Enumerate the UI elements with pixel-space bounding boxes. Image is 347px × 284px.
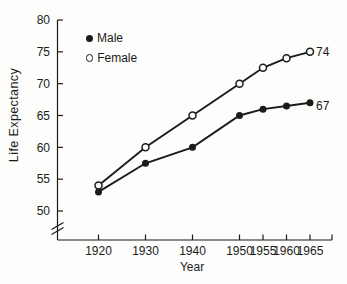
male-point [283,102,290,109]
male-point [189,144,196,151]
female-point [260,64,267,71]
legend-female-label: Female [97,51,137,65]
female-point [142,144,149,151]
male-point [307,99,314,106]
y-tick-label: 50 [37,204,51,218]
y-tick-label: 80 [37,13,51,27]
y-tick-label: 60 [37,141,51,155]
x-tick-label: 1965 [297,244,324,258]
female-open-circle-icon [86,54,93,61]
male-filled-circle-icon [86,35,93,42]
female-point [95,182,102,189]
y-tick-label: 75 [37,45,51,59]
female-end-value-label: 74 [316,45,329,59]
y-tick-label: 55 [37,172,51,186]
y-axis-title: Life Expectancy [7,68,21,162]
male-series-line [99,103,311,192]
legend-male-label: Male [97,31,123,45]
female-point [307,48,314,55]
female-series-line [99,52,311,186]
male-point [260,106,267,113]
female-point [236,80,243,87]
y-tick-label: 70 [37,77,51,91]
female-point [189,112,196,119]
male-point [236,112,243,119]
male-end-value-label: 67 [316,99,329,113]
chart-plot: 5055606570758019201930194019501955196019… [0,0,347,284]
x-tick-label: 1920 [85,244,112,258]
x-tick-label: 1940 [179,244,206,258]
legend-item-male: Male [86,28,137,48]
legend-item-female: Female [86,48,137,68]
legend: Male Female [86,28,137,68]
life-expectancy-figure: 5055606570758019201930194019501955196019… [0,0,347,284]
female-point [283,55,290,62]
male-point [142,160,149,167]
x-axis-title: Year [180,260,204,274]
y-tick-label: 65 [37,109,51,123]
x-tick-label: 1930 [132,244,159,258]
